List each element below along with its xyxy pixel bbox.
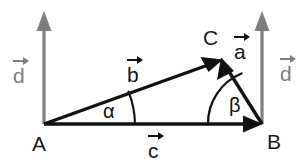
angle-label-alpha: α bbox=[103, 101, 115, 121]
vector-d-right bbox=[255, 11, 270, 124]
point-label-c: C bbox=[203, 27, 218, 48]
vector-accent-icon bbox=[148, 132, 159, 139]
vector-d-left bbox=[37, 11, 52, 124]
vector-label-d-right: d bbox=[280, 55, 292, 84]
vector-label-c: c bbox=[148, 132, 159, 161]
vector-accent-icon bbox=[13, 57, 25, 64]
vector-label-b: b bbox=[127, 56, 139, 85]
vector-accent-icon bbox=[234, 33, 246, 40]
vector-accent-icon bbox=[280, 55, 292, 62]
point-label-a: A bbox=[32, 133, 46, 154]
angle-arc-alpha bbox=[129, 92, 136, 125]
point-label-b: B bbox=[267, 131, 281, 152]
vector-accent-icon bbox=[127, 56, 139, 63]
vector-diagram: A B C c b a d d α β bbox=[0, 0, 305, 165]
angle-label-beta: β bbox=[229, 95, 241, 115]
vector-label-a: a bbox=[234, 33, 246, 62]
vector-label-d-left: d bbox=[13, 57, 25, 86]
vector-c bbox=[44, 116, 263, 133]
